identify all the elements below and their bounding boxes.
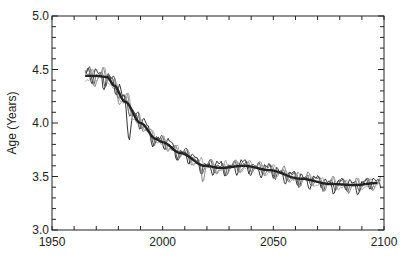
- chart-background: [0, 0, 403, 258]
- y-tick-label: 3.0: [32, 223, 49, 237]
- x-tick-label: 2050: [260, 235, 287, 249]
- y-axis-label: Age (Years): [5, 92, 19, 155]
- y-tick-label: 4.0: [32, 116, 49, 130]
- x-tick-label: 2000: [149, 235, 176, 249]
- y-tick-label: 4.5: [32, 63, 49, 77]
- x-tick-label: 2100: [371, 235, 398, 249]
- y-tick-label: 5.0: [32, 9, 49, 23]
- y-tick-label: 3.5: [32, 170, 49, 184]
- x-tick-label: 1950: [39, 235, 66, 249]
- line-chart: 1950200020502100 3.03.54.04.55.0 Age (Ye…: [0, 0, 403, 258]
